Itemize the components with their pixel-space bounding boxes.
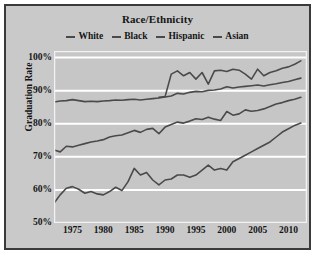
y-tick-label: 80%	[16, 119, 52, 129]
x-tick-label: 2010	[279, 226, 298, 236]
x-tick-label: 1995	[186, 226, 205, 236]
plot-background	[54, 51, 307, 223]
x-tick-label: 1985	[125, 226, 144, 236]
plot-area	[54, 51, 307, 223]
legend-line-icon	[156, 36, 165, 38]
legend-item-asian[interactable]: Asian	[213, 32, 248, 42]
y-tick-label: 90%	[16, 86, 52, 96]
y-tick-label: 100%	[16, 53, 52, 63]
y-tick-label: 70%	[16, 152, 52, 162]
legend-label: Hispanic	[168, 32, 204, 42]
y-tick-label: 60%	[16, 185, 52, 195]
chart-title: Race/Ethnicity	[6, 13, 309, 25]
legend-item-hispanic[interactable]: Hispanic	[156, 32, 204, 42]
x-tick-label: 1980	[94, 226, 113, 236]
x-tick-label: 1975	[63, 226, 82, 236]
y-axis-ticks: 50%60%70%80%90%100%	[6, 51, 52, 223]
legend-item-black[interactable]: Black	[112, 32, 147, 42]
x-axis-ticks: 19751980198519901995200020052010	[54, 226, 307, 240]
legend-line-icon	[112, 36, 121, 38]
x-tick-label: 2005	[248, 226, 267, 236]
x-tick-label: 2000	[217, 226, 236, 236]
legend-line-icon	[213, 36, 222, 38]
legend-item-white[interactable]: White	[66, 32, 103, 42]
plot-svg	[54, 51, 307, 223]
legend-label: Asian	[225, 32, 248, 42]
chart-figure: Race/Ethnicity White Black Hispanic Asia…	[4, 4, 311, 250]
y-tick-label: 50%	[16, 218, 52, 228]
chart-legend: White Black Hispanic Asian	[6, 32, 309, 42]
legend-label: White	[78, 32, 103, 42]
x-tick-label: 1990	[156, 226, 175, 236]
legend-label: Black	[124, 32, 147, 42]
legend-line-icon	[66, 36, 75, 38]
